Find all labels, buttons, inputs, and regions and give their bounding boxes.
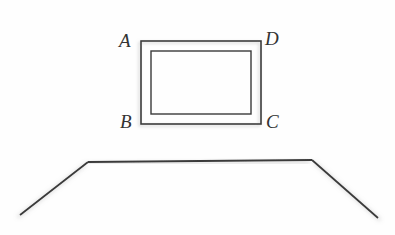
- vertex-label-d: D: [265, 29, 279, 48]
- room-and-frame-drawing: [0, 0, 395, 235]
- vertex-label-c: C: [266, 112, 279, 131]
- canvas-background: [0, 0, 395, 235]
- vertex-label-a: A: [119, 31, 131, 50]
- geometry-diagram: A D B C: [0, 0, 395, 235]
- vertex-label-b: B: [120, 112, 132, 131]
